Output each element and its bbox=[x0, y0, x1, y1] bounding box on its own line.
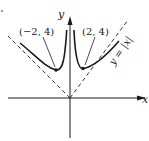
y-axis-label: y bbox=[57, 8, 65, 21]
leader-line-right bbox=[85, 37, 95, 65]
y-axis bbox=[68, 16, 73, 138]
figure-mark bbox=[1, 10, 3, 12]
point-label-neg2-4: (−2, 4) bbox=[19, 26, 54, 37]
leader-line-left bbox=[43, 37, 55, 67]
x-axis-label: x bbox=[142, 93, 149, 106]
x-axis bbox=[8, 96, 146, 101]
point-label-2-4: (2, 4) bbox=[82, 26, 109, 37]
point-neg2-4 bbox=[54, 68, 58, 72]
y-axis-arrow-icon bbox=[68, 16, 73, 25]
function-graph: x y (−2, 4) (2, 4) y = |x| bbox=[0, 0, 149, 141]
point-2-4 bbox=[81, 67, 85, 71]
